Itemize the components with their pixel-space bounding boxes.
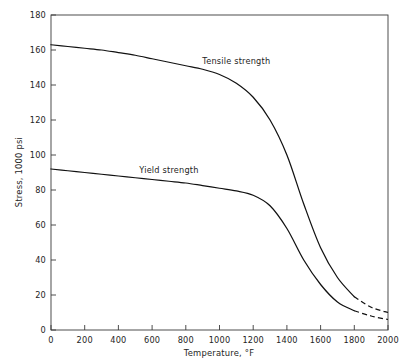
x-tick-label: 1000 <box>209 335 231 345</box>
chart-background <box>0 0 413 360</box>
x-tick-label: 1200 <box>242 335 264 345</box>
x-tick-label: 600 <box>144 335 160 345</box>
y-tick-label: 180 <box>30 10 46 20</box>
annotation-tensile-strength: Tensile strength <box>201 56 270 66</box>
y-tick-label: 160 <box>30 45 46 55</box>
y-tick-label: 0 <box>41 325 46 335</box>
x-tick-label: 200 <box>77 335 93 345</box>
y-tick-label: 20 <box>35 290 46 300</box>
x-axis-title: Temperature, °F <box>183 348 254 358</box>
y-tick-label: 140 <box>30 80 46 90</box>
y-tick-label: 100 <box>30 150 46 160</box>
x-tick-label: 1400 <box>276 335 298 345</box>
x-tick-label: 1600 <box>310 335 332 345</box>
x-tick-label: 0 <box>48 335 53 345</box>
y-tick-label: 120 <box>30 115 46 125</box>
y-tick-label: 40 <box>35 255 46 265</box>
x-tick-label: 400 <box>110 335 126 345</box>
annotation-yield-strength: Yield strength <box>138 165 198 175</box>
x-tick-label: 800 <box>178 335 194 345</box>
y-axis-title: Stress, 1000 psi <box>14 137 24 207</box>
y-tick-label: 80 <box>35 185 46 195</box>
chart-figure: 020406080100120140160180 020040060080010… <box>0 0 413 360</box>
x-tick-label: 2000 <box>377 335 399 345</box>
y-tick-label: 60 <box>35 220 46 230</box>
stress-temperature-chart: 020406080100120140160180 020040060080010… <box>0 0 413 360</box>
x-tick-label: 1800 <box>343 335 365 345</box>
